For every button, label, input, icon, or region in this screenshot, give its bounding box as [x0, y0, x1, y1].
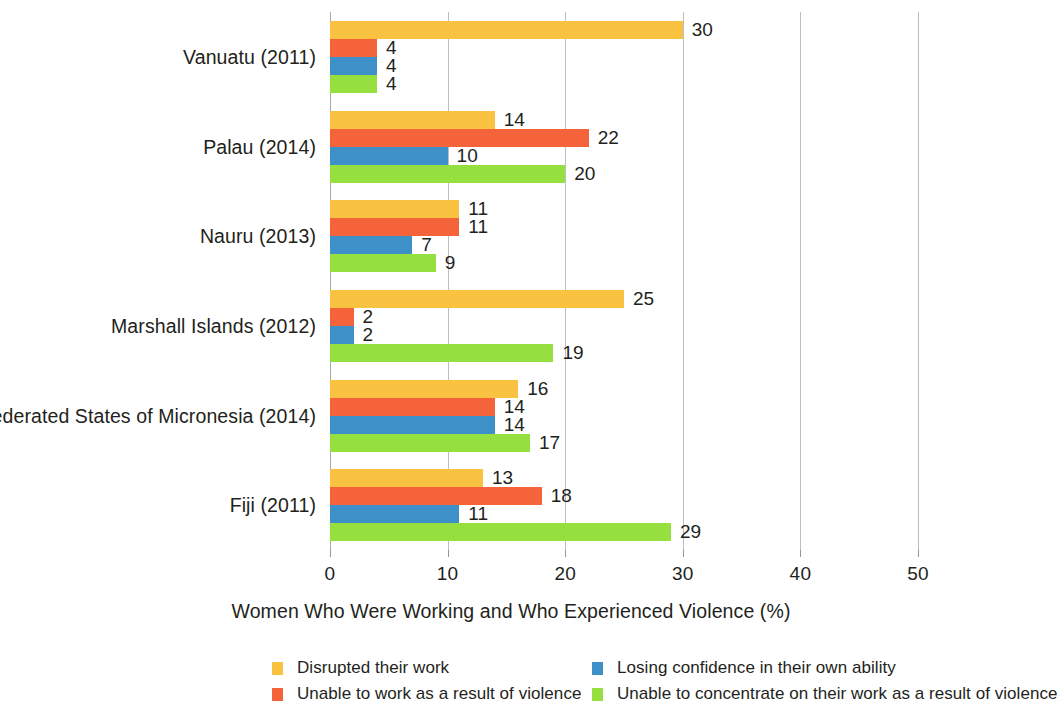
bar-row: 2 — [330, 308, 918, 326]
bar-group: Federated States of Micronesia (2014)161… — [330, 380, 918, 452]
bar-row: 29 — [330, 523, 918, 541]
bar[interactable] — [330, 487, 542, 505]
x-axis-tick — [330, 550, 331, 557]
bar[interactable] — [330, 147, 448, 165]
legend-item[interactable]: Unable to work as a result of violence — [272, 684, 592, 704]
bar-row: 7 — [330, 236, 918, 254]
legend-item[interactable]: Losing confidence in their own ability — [592, 658, 1057, 678]
bar[interactable] — [330, 290, 624, 308]
bar-row: 14 — [330, 398, 918, 416]
category-label: Palau (2014) — [203, 135, 316, 158]
bar[interactable] — [330, 505, 459, 523]
bar-value-label: 18 — [551, 486, 572, 505]
bar-row: 13 — [330, 469, 918, 487]
plot-area: 01020304050Vanuatu (2011)30444Palau (201… — [330, 12, 918, 550]
bar[interactable] — [330, 398, 495, 416]
bar-row: 2 — [330, 326, 918, 344]
bar[interactable] — [330, 200, 459, 218]
bar-value-label: 19 — [562, 343, 583, 362]
legend-label: Unable to work as a result of violence — [297, 684, 581, 704]
bar-row: 14 — [330, 111, 918, 129]
legend-swatch-yellow — [272, 662, 283, 675]
bar-value-label: 9 — [445, 253, 456, 272]
bar-value-label: 20 — [574, 164, 595, 183]
x-axis-tick — [918, 550, 919, 557]
x-axis-tick — [448, 550, 449, 557]
bar-value-label: 4 — [386, 74, 397, 93]
bar-group: Fiji (2011)13181129 — [330, 469, 918, 541]
bar[interactable] — [330, 416, 495, 434]
x-axis-title: Women Who Were Working and Who Experienc… — [0, 600, 1016, 623]
bar-value-label: 14 — [504, 110, 525, 129]
category-label: Nauru (2013) — [200, 225, 316, 248]
x-axis-tick-label: 30 — [672, 563, 694, 585]
bar[interactable] — [330, 218, 459, 236]
bar-value-label: 2 — [363, 325, 374, 344]
bar-value-label: 11 — [468, 504, 488, 523]
bar-row: 11 — [330, 218, 918, 236]
x-axis-tick-label: 40 — [790, 563, 812, 585]
x-axis-tick-label: 0 — [325, 563, 336, 585]
legend-label: Unable to concentrate on their work as a… — [617, 684, 1057, 704]
bar-group: Nauru (2013)111179 — [330, 200, 918, 272]
bar-value-label: 14 — [504, 415, 525, 434]
bar-row: 17 — [330, 434, 918, 452]
bar-row: 4 — [330, 75, 918, 93]
bar[interactable] — [330, 21, 683, 39]
bar-row: 19 — [330, 344, 918, 362]
bar-row: 10 — [330, 147, 918, 165]
bar[interactable] — [330, 39, 377, 57]
bar-value-label: 11 — [468, 217, 488, 236]
bar-value-label: 29 — [680, 522, 701, 541]
x-axis-tick — [565, 550, 566, 557]
legend-swatch-blue — [592, 662, 603, 675]
bar-row: 14 — [330, 416, 918, 434]
x-axis-tick — [800, 550, 801, 557]
bar-value-label: 13 — [492, 468, 513, 487]
bar[interactable] — [330, 523, 671, 541]
bar-group: Vanuatu (2011)30444 — [330, 21, 918, 93]
bar-value-label: 16 — [527, 379, 548, 398]
legend-item[interactable]: Disrupted their work — [272, 658, 592, 678]
bar-row: 20 — [330, 165, 918, 183]
bar-row: 30 — [330, 21, 918, 39]
bar-value-label: 25 — [633, 289, 654, 308]
x-axis-tick-label: 50 — [907, 563, 929, 585]
bar[interactable] — [330, 57, 377, 75]
bar-value-label: 17 — [539, 433, 560, 452]
legend-item[interactable]: Unable to concentrate on their work as a… — [592, 684, 1057, 704]
legend-label: Disrupted their work — [297, 658, 449, 678]
bar-row: 4 — [330, 39, 918, 57]
bar[interactable] — [330, 111, 495, 129]
bar[interactable] — [330, 344, 553, 362]
bar-row: 25 — [330, 290, 918, 308]
bar-value-label: 7 — [421, 235, 432, 254]
bar[interactable] — [330, 236, 412, 254]
category-label: Marshall Islands (2012) — [111, 314, 316, 337]
category-label: Fiji (2011) — [230, 494, 316, 517]
bar[interactable] — [330, 165, 565, 183]
bar-row: 4 — [330, 57, 918, 75]
x-axis-title-text: Women Who Were Working and Who Experienc… — [232, 600, 791, 623]
bar[interactable] — [330, 308, 354, 326]
bar[interactable] — [330, 254, 436, 272]
x-axis-tick-label: 10 — [437, 563, 459, 585]
bar-value-label: 30 — [692, 20, 713, 39]
category-label: Vanuatu (2011) — [183, 45, 316, 68]
x-axis-tick — [683, 550, 684, 557]
bar-row: 16 — [330, 380, 918, 398]
bar-value-label: 10 — [457, 146, 478, 165]
legend-swatch-orange — [272, 688, 283, 701]
bar[interactable] — [330, 75, 377, 93]
gridline — [918, 12, 919, 550]
category-label: Federated States of Micronesia (2014) — [0, 404, 316, 427]
legend-label: Losing confidence in their own ability — [617, 658, 896, 678]
bar[interactable] — [330, 380, 518, 398]
bar[interactable] — [330, 434, 530, 452]
bar-row: 11 — [330, 200, 918, 218]
bar[interactable] — [330, 469, 483, 487]
bar-group: Palau (2014)14221020 — [330, 111, 918, 183]
bar-value-label: 22 — [598, 128, 619, 147]
bar[interactable] — [330, 326, 354, 344]
